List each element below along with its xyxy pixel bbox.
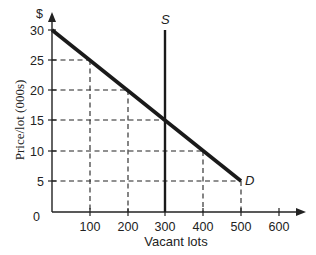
y-tick-label: 5: [37, 175, 44, 189]
x-tick-label: 300: [155, 220, 176, 234]
origin-label: 0: [33, 210, 40, 224]
y-axis-arrow-icon: [48, 12, 56, 22]
supply-label: S: [161, 12, 170, 27]
x-tick-label: 400: [193, 220, 214, 234]
y-tick-label: 15: [30, 114, 44, 128]
x-tick-label: 500: [231, 220, 252, 234]
y-tick-label: 10: [30, 145, 44, 159]
x-tick-label: 100: [80, 220, 101, 234]
axes: [52, 18, 300, 212]
x-axis-label: Vacant lots: [144, 234, 208, 249]
x-axis-arrow-icon: [296, 208, 306, 216]
x-tick-label: 600: [269, 220, 290, 234]
demand-curve: [52, 30, 241, 181]
demand-label: D: [245, 173, 254, 188]
y-tick-label: 20: [30, 84, 44, 98]
y-axis-label: Price/lot (000s): [12, 80, 27, 161]
supply-demand-chart: $ 30 25 20 15 10 5 0 100 200 300 400 500…: [0, 0, 316, 255]
y-unit-symbol: $: [36, 7, 43, 21]
y-tick-label: 25: [30, 54, 44, 68]
x-tick-label: 200: [118, 220, 139, 234]
tick-marks: [48, 30, 279, 216]
guide-lines: [52, 60, 241, 212]
y-tick-label: 30: [30, 24, 44, 38]
